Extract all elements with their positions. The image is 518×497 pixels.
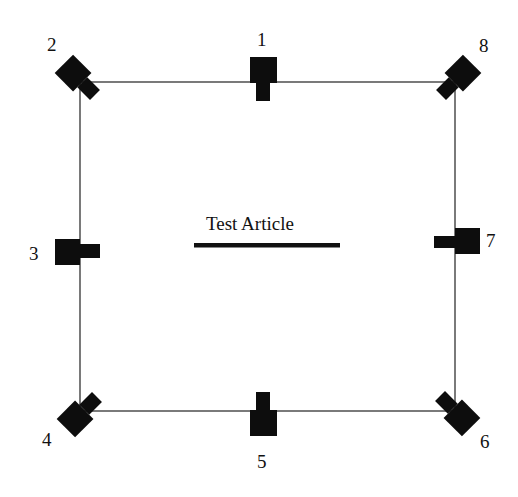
- test-article-label: Test Article: [206, 214, 294, 233]
- camera-layout-diagram: [0, 0, 518, 497]
- camera-7-icon: [434, 228, 480, 254]
- camera-6-label: 6: [480, 432, 490, 451]
- camera-1-label: 1: [257, 30, 267, 49]
- camera-4-label: 4: [42, 430, 52, 449]
- camera-7-label: 7: [486, 231, 496, 250]
- camera-4-icon: [57, 388, 106, 437]
- camera-3-label: 3: [29, 244, 39, 263]
- camera-3-icon: [55, 239, 100, 265]
- camera-2-label: 2: [47, 35, 57, 54]
- camera-5-label: 5: [257, 452, 267, 471]
- camera-5-icon: [250, 392, 277, 436]
- test-article-bar: [194, 243, 340, 248]
- camera-8-icon: [432, 55, 481, 104]
- camera-8-label: 8: [479, 36, 489, 55]
- camera-1-icon: [250, 57, 277, 101]
